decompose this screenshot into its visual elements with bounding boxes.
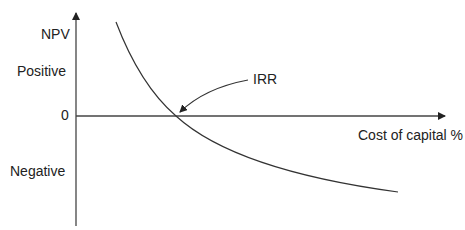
irr-arrow (180, 80, 248, 112)
npv-curve (116, 22, 398, 192)
x-axis-label: Cost of capital % (358, 127, 463, 143)
irr-label: IRR (253, 71, 277, 87)
zero-label: 0 (61, 107, 69, 123)
positive-label: Positive (17, 63, 66, 79)
npv-axis-label: NPV (41, 26, 70, 42)
negative-label: Negative (10, 163, 65, 179)
